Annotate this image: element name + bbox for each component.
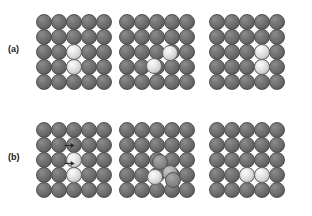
substrate-atom	[224, 122, 240, 138]
substrate-atom	[209, 152, 225, 168]
substrate-atom	[224, 29, 240, 45]
substrate-atom	[36, 29, 52, 45]
substrate-atom	[179, 137, 195, 153]
substrate-atom	[224, 152, 240, 168]
substrate-atom	[134, 14, 150, 30]
substrate-atom	[254, 182, 270, 198]
substrate-atom	[209, 44, 225, 60]
substrate-atom	[134, 182, 150, 198]
substrate-atom	[81, 59, 97, 75]
substrate-atom	[51, 167, 67, 183]
substrate-atom	[149, 74, 165, 90]
substrate-atom	[224, 74, 240, 90]
substrate-atom	[269, 59, 285, 75]
row-label-b: (b)	[8, 152, 34, 162]
substrate-atom	[269, 182, 285, 198]
substrate-atom	[149, 14, 165, 30]
substrate-atom	[66, 122, 82, 138]
substrate-atom	[119, 167, 135, 183]
substrate-atom	[81, 74, 97, 90]
substrate-atom	[51, 29, 67, 45]
adatom	[254, 167, 270, 183]
substrate-atom	[209, 14, 225, 30]
substrate-lattice	[118, 13, 195, 95]
substrate-atom	[209, 167, 225, 183]
substrate-atom	[239, 122, 255, 138]
adatom	[254, 59, 270, 75]
substrate-atom	[179, 59, 195, 75]
substrate-atom	[164, 59, 180, 75]
substrate-atom	[36, 74, 52, 90]
substrate-atom	[36, 44, 52, 60]
substrate-atom	[239, 14, 255, 30]
substrate-atom	[96, 74, 112, 90]
substrate-atom	[96, 44, 112, 60]
substrate-atom	[164, 14, 180, 30]
substrate-atom	[134, 44, 150, 60]
substrate-atom	[51, 59, 67, 75]
substrate-atom	[179, 29, 195, 45]
substrate-atom	[81, 14, 97, 30]
substrate-atom	[269, 14, 285, 30]
substrate-atom	[119, 152, 135, 168]
substrate-atom	[96, 59, 112, 75]
substrate-atom	[119, 44, 135, 60]
substrate-atom	[51, 152, 67, 168]
substrate-atom	[239, 152, 255, 168]
substrate-atom	[269, 29, 285, 45]
substrate-atom	[224, 167, 240, 183]
substrate-atom	[96, 29, 112, 45]
substrate-lattice	[208, 13, 285, 95]
substrate-atom	[119, 137, 135, 153]
substrate-atom	[81, 44, 97, 60]
panel-a1-initial-state	[35, 13, 112, 95]
substrate-atom	[36, 167, 52, 183]
substrate-atom	[36, 59, 52, 75]
adatom	[162, 45, 178, 61]
substrate-atom	[149, 137, 165, 153]
substrate-atom	[119, 182, 135, 198]
substrate-atom	[254, 152, 270, 168]
substrate-atom	[164, 29, 180, 45]
panel-b2-transition-state	[118, 121, 195, 203]
panel-b3-final-state	[208, 121, 285, 203]
substrate-atom	[134, 152, 150, 168]
substrate-atom	[119, 74, 135, 90]
substrate-atom	[239, 182, 255, 198]
substrate-atom	[36, 182, 52, 198]
substrate-atom	[164, 74, 180, 90]
substrate-atom	[224, 182, 240, 198]
substrate-atom	[179, 122, 195, 138]
substrate-atom	[209, 182, 225, 198]
adatom	[147, 169, 163, 185]
substrate-atom	[179, 14, 195, 30]
substrate-atom	[134, 137, 150, 153]
substrate-atom	[179, 74, 195, 90]
panel-a3-final-state	[208, 13, 285, 95]
substrate-atom	[149, 29, 165, 45]
substrate-atom	[239, 44, 255, 60]
substrate-atom	[239, 29, 255, 45]
substrate-atom	[209, 74, 225, 90]
substrate-atom	[254, 122, 270, 138]
substrate-atom	[81, 29, 97, 45]
substrate-atom	[209, 59, 225, 75]
substrate-atom	[96, 167, 112, 183]
substrate-atom	[179, 44, 195, 60]
substrate-atom	[51, 74, 67, 90]
substrate-atom	[66, 182, 82, 198]
substrate-atom	[209, 122, 225, 138]
substrate-atom	[164, 137, 180, 153]
substrate-atom	[254, 29, 270, 45]
substrate-atom	[269, 74, 285, 90]
adatom	[239, 167, 255, 183]
substrate-atom	[179, 152, 195, 168]
substrate-atom	[119, 29, 135, 45]
substrate-atom	[36, 137, 52, 153]
substrate-atom	[96, 182, 112, 198]
substrate-atom	[81, 167, 97, 183]
substrate-atom	[239, 74, 255, 90]
substrate-atom	[51, 137, 67, 153]
substrate-atom	[51, 122, 67, 138]
substrate-atom	[66, 14, 82, 30]
